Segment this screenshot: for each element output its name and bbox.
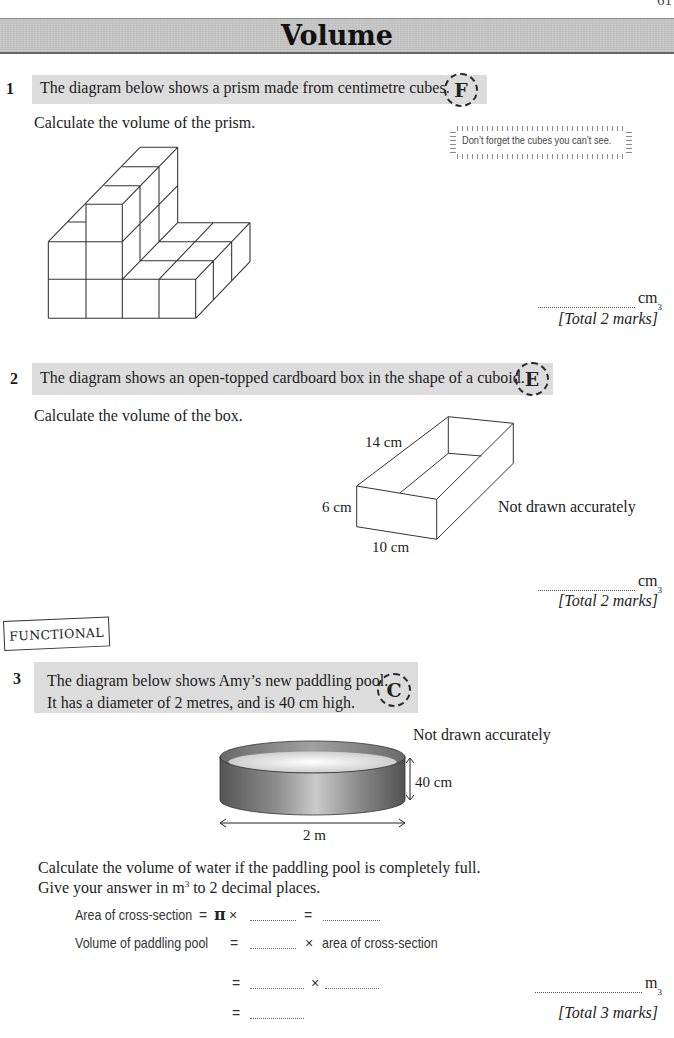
- height-arrow: [406, 758, 414, 800]
- question-3-prompt-band: The diagram below shows Amy’s new paddli…: [34, 662, 418, 713]
- question-2-prompt-band: The diagram shows an open-topped cardboa…: [32, 363, 553, 395]
- instruction-text: to 2 decimal places.: [189, 879, 320, 896]
- question-1-prompt: The diagram below shows a prism made fro…: [40, 79, 450, 97]
- hint-ticks-bottom: [457, 154, 625, 159]
- title-band: Volume: [0, 18, 674, 54]
- answer-blank[interactable]: [538, 575, 635, 591]
- question-3-prompt-line-1: The diagram below shows Amy’s new paddli…: [47, 670, 388, 692]
- answer-unit: cm: [638, 288, 658, 308]
- answer-blank[interactable]: [535, 977, 642, 993]
- hint-text: Don’t forget the cubes you can’t see.: [462, 134, 611, 146]
- grade-f-icon: F: [444, 73, 478, 107]
- instruction-text: Give your answer in m: [38, 879, 185, 896]
- question-3-prompt-line-2: It has a diameter of 2 metres, and is 40…: [47, 692, 355, 714]
- question-3-number: 3: [13, 669, 21, 689]
- functional-tag: FUNCTIONAL: [3, 616, 110, 651]
- pool-not-to-scale-note: Not drawn accurately: [413, 725, 551, 745]
- box-length-label: 14 cm: [365, 433, 402, 451]
- factor-1-blank[interactable]: [250, 975, 304, 989]
- question-2-prompt: The diagram shows an open-topped cardboa…: [40, 369, 525, 387]
- prism-cubes-diagram: [30, 140, 270, 325]
- equals-sign: =: [230, 934, 238, 952]
- hint-box: Don’t forget the cubes you can’t see.: [450, 126, 632, 159]
- question-2-answer-line[interactable]: cm3: [538, 571, 662, 591]
- answer-unit: cm: [638, 571, 658, 591]
- question-2-number: 2: [10, 369, 18, 389]
- question-3-instruction-line-1: Calculate the volume of water if the pad…: [38, 858, 481, 878]
- area-of-cross-section-text: area of cross-section: [322, 934, 438, 952]
- question-1-instruction: Calculate the volume of the prism.: [34, 113, 255, 133]
- equals-sign: =: [232, 1004, 240, 1022]
- grade-letter: F: [454, 79, 468, 101]
- pool-diameter-label: 2 m: [303, 826, 326, 844]
- question-3-instruction-line-2: Give your answer in m3 to 2 decimal plac…: [38, 878, 320, 898]
- factor-2-blank[interactable]: [325, 975, 379, 989]
- radius-blank[interactable]: [250, 907, 296, 921]
- page-number: 61: [657, 0, 672, 9]
- grade-c-icon: C: [377, 673, 411, 707]
- question-1-marks: [Total 2 marks]: [558, 309, 658, 329]
- page-title: Volume: [0, 19, 674, 52]
- volume-label: Volume of paddling pool: [75, 934, 208, 952]
- question-1-prompt-band: The diagram below shows a prism made fro…: [32, 75, 487, 104]
- pool-height-label: 40 cm: [415, 773, 452, 791]
- grade-letter: E: [525, 368, 539, 390]
- box-width-label: 10 cm: [372, 538, 409, 556]
- box-height-label: 6 cm: [322, 498, 352, 516]
- question-1-number: 1: [6, 79, 14, 99]
- question-2-instruction: Calculate the volume of the box.: [34, 406, 243, 426]
- grade-letter: C: [386, 679, 401, 701]
- hint-ticks-top: [457, 126, 625, 131]
- question-2-marks: [Total 2 marks]: [558, 591, 658, 611]
- times-sign: ×: [311, 974, 319, 992]
- times-sign: ×: [229, 906, 237, 924]
- hint-ticks-right: [626, 132, 632, 153]
- question-3-marks: [Total 3 marks]: [558, 1003, 658, 1023]
- equals-sign: =: [304, 906, 312, 924]
- box-not-to-scale-note: Not drawn accurately: [498, 497, 636, 517]
- equals-sign: =: [232, 974, 240, 992]
- hint-ticks-left: [450, 132, 456, 153]
- area-label: Area of cross-section: [75, 906, 192, 924]
- question-3-answer-line[interactable]: m3: [535, 973, 662, 993]
- height-blank[interactable]: [250, 935, 296, 949]
- answer-unit: m: [645, 973, 657, 993]
- area-result-blank[interactable]: [323, 907, 380, 921]
- grade-e-icon: E: [515, 362, 549, 396]
- times-sign: ×: [305, 934, 313, 952]
- paddling-pool-diagram: [200, 728, 430, 838]
- question-1-answer-line[interactable]: cm3: [538, 288, 662, 308]
- pi-symbol: π: [214, 906, 226, 924]
- result-blank[interactable]: [250, 1005, 304, 1019]
- open-box-diagram: [290, 400, 530, 550]
- equals-sign: =: [199, 906, 207, 924]
- answer-blank[interactable]: [538, 292, 635, 308]
- functional-tag-label: FUNCTIONAL: [9, 624, 104, 643]
